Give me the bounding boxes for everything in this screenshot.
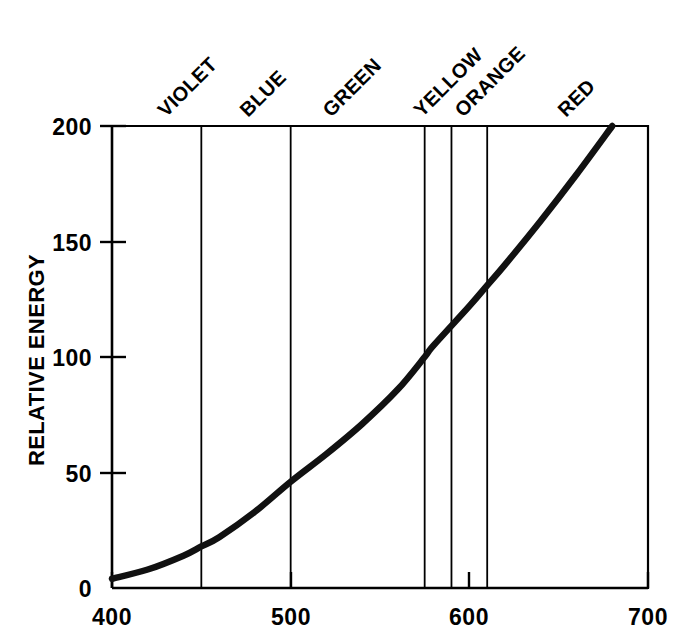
y-tick-label-200: 200: [52, 114, 92, 140]
band-label-green: GREEN: [318, 54, 385, 121]
y-tick-label-100: 100: [52, 345, 92, 371]
x-tick-label-700: 700: [628, 604, 668, 630]
y-tick-label-0: 0: [79, 576, 92, 602]
plot-frame: [112, 126, 648, 588]
x-tick-label-500: 500: [271, 604, 311, 630]
band-label-violet: VIOLET: [153, 53, 221, 121]
band-label-blue: BLUE: [235, 66, 290, 121]
band-label-red: RED: [553, 75, 599, 121]
x-tick-label-400: 400: [92, 604, 132, 630]
x-tick-label-600: 600: [449, 604, 489, 630]
energy-curve-main: [112, 126, 612, 579]
chart-figure: 200 150 100 50 0 400 500 600 700 RELATIV…: [0, 0, 692, 642]
y-axis-title: RELATIVE ENERGY: [24, 254, 49, 466]
y-tick-label-150: 150: [52, 230, 92, 256]
y-tick-label-50: 50: [65, 461, 92, 487]
spectral-energy-chart: 200 150 100 50 0 400 500 600 700 RELATIV…: [0, 0, 692, 642]
